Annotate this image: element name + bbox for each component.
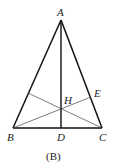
label-c: C (99, 131, 107, 143)
triangle-abc (13, 20, 102, 128)
figure-caption: (B) (46, 150, 61, 163)
label-h: H (63, 94, 73, 106)
geometry-figure: A B D C E H (B) (0, 0, 114, 167)
label-e: E (93, 87, 101, 99)
label-b: B (7, 131, 14, 143)
label-d: D (56, 131, 65, 143)
label-a: A (56, 6, 64, 18)
